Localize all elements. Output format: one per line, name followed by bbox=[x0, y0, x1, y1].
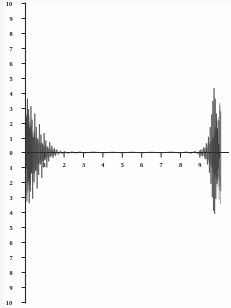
y-tick-label: 0 bbox=[9, 149, 12, 156]
y-axis-tick-labels: 10 9 8 7 6 5 4 3 2 1 0 1 2 3 4 5 6 7 8 9 bbox=[6, 0, 14, 306]
x-axis-tick-labels: 1 2 3 4 5 6 7 8 9 bbox=[43, 161, 201, 168]
y-tick-label: 5 bbox=[9, 224, 12, 231]
x-tick-label: 7 bbox=[159, 161, 163, 168]
y-tick-label: 4 bbox=[9, 90, 13, 97]
y-tick-label: 9 bbox=[9, 15, 12, 22]
y-tick-label: 3 bbox=[9, 105, 12, 112]
y-tick-label: 8 bbox=[9, 30, 12, 37]
y-tick-label: 1 bbox=[9, 135, 12, 142]
x-axis-ticks bbox=[45, 153, 220, 158]
y-tick-label: 3 bbox=[9, 194, 12, 201]
y-axis: 10 9 8 7 6 5 4 3 2 1 0 1 2 3 4 5 6 7 8 9 bbox=[6, 0, 26, 306]
y-tick-label: 6 bbox=[9, 239, 13, 246]
y-tick-label: 10 bbox=[6, 0, 12, 7]
y-tick-label: 5 bbox=[9, 75, 12, 82]
x-tick-label: 5 bbox=[121, 161, 124, 168]
y-axis-ticks bbox=[22, 4, 26, 303]
x-tick-label: 3 bbox=[82, 161, 85, 168]
plot-figure: 10 9 8 7 6 5 4 3 2 1 0 1 2 3 4 5 6 7 8 9 bbox=[0, 0, 231, 308]
x-tick-label: 8 bbox=[179, 161, 182, 168]
y-tick-label: 2 bbox=[9, 120, 12, 127]
y-tick-label: 7 bbox=[9, 45, 13, 52]
right-transient-hatch bbox=[200, 103, 221, 204]
y-tick-label: 6 bbox=[9, 60, 13, 67]
x-tick-label: 4 bbox=[101, 161, 105, 168]
y-tick-label: 1 bbox=[9, 164, 12, 171]
y-tick-label: 2 bbox=[9, 179, 12, 186]
x-tick-label: 9 bbox=[198, 161, 201, 168]
y-tick-label: 9 bbox=[9, 284, 12, 291]
y-tick-label: 10 bbox=[6, 299, 12, 306]
y-tick-label: 4 bbox=[9, 209, 13, 216]
x-tick-label: 6 bbox=[140, 161, 144, 168]
y-tick-label: 8 bbox=[9, 269, 12, 276]
y-tick-label: 7 bbox=[9, 254, 13, 261]
x-tick-label: 2 bbox=[62, 161, 65, 168]
oscillation-plot: 10 9 8 7 6 5 4 3 2 1 0 1 2 3 4 5 6 7 8 9 bbox=[0, 0, 231, 308]
